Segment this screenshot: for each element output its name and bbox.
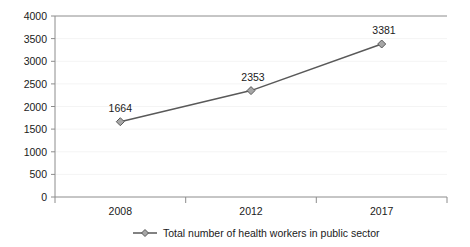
y-axis-label-1500: 1500 (24, 123, 48, 135)
chart-canvas: 4000 3500 3000 2500 2000 1500 1000 500 0… (0, 0, 470, 247)
y-axis-label-4000: 4000 (24, 10, 48, 22)
y-axis-label-2500: 2500 (24, 78, 48, 90)
data-label-2012: 2353 (241, 71, 265, 83)
line-chart: 4000 3500 3000 2500 2000 1500 1000 500 0… (0, 0, 470, 247)
y-axis-label-500: 500 (29, 168, 47, 180)
x-axis-label-2012: 2012 (239, 205, 263, 217)
y-axis-label-1000: 1000 (24, 146, 48, 158)
x-axis-label-2008: 2008 (109, 205, 133, 217)
x-axis-ticks (55, 197, 447, 203)
data-label-2017: 3381 (372, 24, 396, 36)
x-axis-label-2017: 2017 (370, 205, 394, 217)
y-axis-label-0: 0 (41, 191, 47, 203)
legend-diamond-marker-icon (142, 230, 149, 237)
chart-legend: Total number of health workers in public… (133, 227, 380, 239)
y-axis-label-3500: 3500 (24, 33, 48, 45)
x-axis-labels: 2008 2012 2017 (109, 205, 394, 217)
y-axis-label-2000: 2000 (24, 101, 48, 113)
y-axis-label-3000: 3000 (24, 55, 48, 67)
y-axis-labels: 4000 3500 3000 2500 2000 1500 1000 500 0 (24, 10, 48, 203)
data-label-2008: 1664 (109, 102, 133, 114)
legend-entry-label: Total number of health workers in public… (163, 227, 380, 239)
y-axis-ticks (51, 16, 55, 197)
